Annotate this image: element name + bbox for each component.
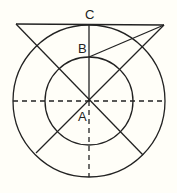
label-a: A [78,109,87,124]
label-b: B [78,41,87,56]
geometry-diagram: C B A [0,0,177,193]
segment-b-topright [89,25,164,57]
top-line [16,24,164,25]
diagonal-topright-bottomleft [36,25,164,153]
label-c: C [85,7,94,22]
